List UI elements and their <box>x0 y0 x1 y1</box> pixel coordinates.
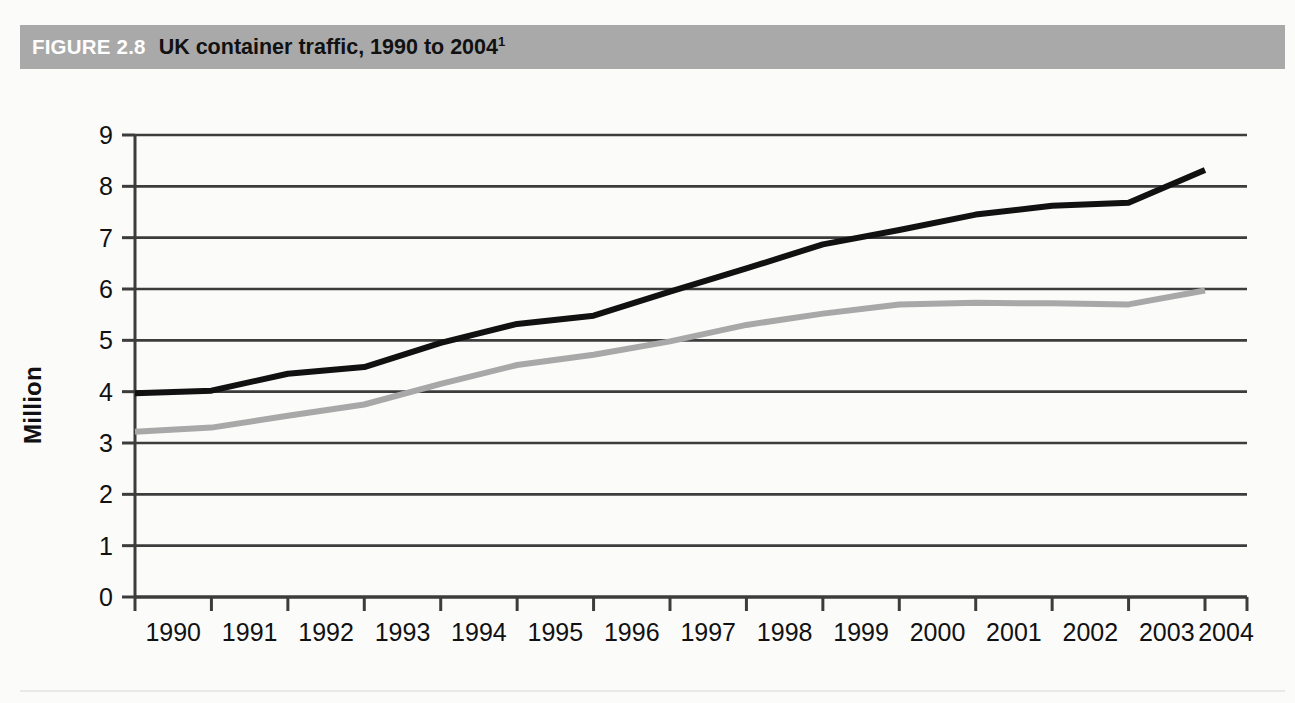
x-tick-label: 1993 <box>375 618 431 646</box>
figure-title-text: UK container traffic, 1990 to 2004 <box>159 35 498 59</box>
figure-bottom-rule <box>20 690 1285 692</box>
x-tick-label: 1991 <box>222 618 278 646</box>
y-tick-group <box>122 135 135 597</box>
x-tick-label: 2004 <box>1198 618 1254 646</box>
x-tick-group <box>135 597 1247 611</box>
figure-title: UK container traffic, 1990 to 20041 <box>159 34 506 60</box>
y-tick-label: 9 <box>99 121 113 149</box>
x-tick-label: 2002 <box>1063 618 1119 646</box>
figure-header-band: FIGURE 2.8 UK container traffic, 1990 to… <box>20 25 1285 69</box>
line-chart: 0123456789 19901991199219931994199519961… <box>0 69 1295 659</box>
series-line <box>135 291 1205 432</box>
x-tick-label: 1995 <box>528 618 584 646</box>
x-tick-label: 2001 <box>986 618 1042 646</box>
y-tick-label: 1 <box>99 532 113 560</box>
y-tick-label: 4 <box>99 378 113 406</box>
x-tick-label: 1996 <box>604 618 660 646</box>
y-tick-label: 7 <box>99 224 113 252</box>
x-tick-label: 1990 <box>145 618 201 646</box>
x-tick-label: 1997 <box>680 618 736 646</box>
y-tick-label: 2 <box>99 480 113 508</box>
plot-area: Million 0123456789 199019911992199319941… <box>0 69 1295 659</box>
x-tick-label: 1992 <box>298 618 354 646</box>
x-tick-labels-group: 1990199119921993199419951996199719981999… <box>145 618 1253 646</box>
y-tick-label: 6 <box>99 275 113 303</box>
x-tick-label: 2000 <box>910 618 966 646</box>
x-tick-label: 2003 <box>1139 618 1195 646</box>
figure-title-footnote-marker: 1 <box>498 34 505 49</box>
y-tick-label: 5 <box>99 326 113 354</box>
y-tick-labels-group: 0123456789 <box>99 121 113 611</box>
y-tick-label: 0 <box>99 583 113 611</box>
x-tick-label: 1998 <box>757 618 813 646</box>
y-tick-label: 3 <box>99 429 113 457</box>
x-tick-label: 1999 <box>833 618 889 646</box>
x-tick-label: 1994 <box>451 618 507 646</box>
y-tick-label: 8 <box>99 172 113 200</box>
figure-number-label: FIGURE 2.8 <box>32 35 146 59</box>
figure-container: FIGURE 2.8 UK container traffic, 1990 to… <box>0 0 1295 703</box>
series-line <box>135 170 1205 393</box>
